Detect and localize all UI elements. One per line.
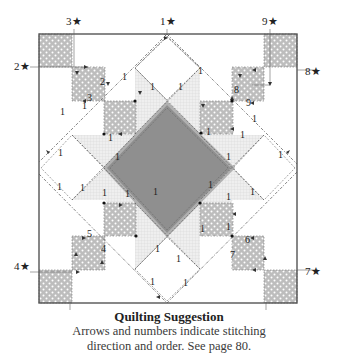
start-label-1: 1★	[160, 15, 176, 27]
caption: Quilting Suggestion Arrows and numbers i…	[0, 309, 338, 354]
path-number: 2	[100, 76, 105, 87]
path-number: 1	[108, 132, 113, 143]
path-number: 8	[234, 84, 239, 95]
path-number: 1	[80, 182, 85, 193]
path-number: 1	[155, 243, 160, 254]
path-number: 3	[87, 92, 92, 103]
path-number: 1	[122, 71, 127, 82]
path-number: 1	[178, 81, 183, 92]
path-number: 6	[245, 234, 250, 245]
square-bl-corner	[39, 270, 72, 303]
start-label-3: 3★	[66, 15, 82, 27]
start-label-7: 7★	[305, 265, 321, 277]
path-number: 1	[240, 129, 245, 140]
caption-line-2: direction and order. See page 80.	[0, 339, 338, 354]
square-tl-corner	[39, 34, 72, 67]
path-number: 4	[101, 243, 106, 254]
path-number: 1	[82, 100, 87, 111]
quilting-diagram: 231111111118911111111111541111167111 1★2…	[0, 0, 338, 310]
path-number: 1	[208, 179, 213, 190]
square-bl-inner	[104, 203, 136, 236]
path-number: 1	[198, 65, 203, 76]
path-number: 1	[150, 276, 155, 287]
start-label-4: 4★	[14, 260, 30, 272]
path-number: 1	[200, 223, 205, 234]
caption-title: Quilting Suggestion	[0, 309, 338, 324]
path-number: 1	[150, 81, 155, 92]
caption-line-1: Arrows and numbers indicate stitching	[0, 324, 338, 339]
path-number: 1	[176, 253, 181, 264]
square-tl-inner	[104, 101, 136, 134]
path-number: 1	[57, 181, 62, 192]
square-tr-inner	[200, 101, 233, 134]
square-tr-corner	[264, 34, 297, 67]
start-label-2: 2★	[14, 60, 30, 72]
path-number: 1	[226, 191, 231, 202]
path-number: 9	[246, 97, 251, 108]
path-number: 1	[226, 151, 231, 162]
path-number: 1	[60, 106, 65, 117]
path-number: 1	[183, 277, 188, 288]
path-number: 7	[230, 249, 235, 260]
path-number: 1	[252, 113, 257, 124]
path-number: 5	[87, 228, 92, 239]
path-number: 1	[153, 186, 158, 197]
path-number: 1	[125, 188, 130, 199]
start-label-8: 8★	[305, 65, 321, 77]
path-number: 1	[115, 151, 120, 162]
path-number: 1	[58, 147, 63, 158]
path-number: 1	[102, 187, 107, 198]
square-br-corner	[264, 270, 297, 303]
start-label-9: 9★	[262, 15, 278, 27]
path-number: 1	[206, 126, 211, 137]
path-number: 1	[250, 186, 255, 197]
path-number: 1	[278, 149, 283, 160]
path-number: 1	[226, 221, 231, 232]
